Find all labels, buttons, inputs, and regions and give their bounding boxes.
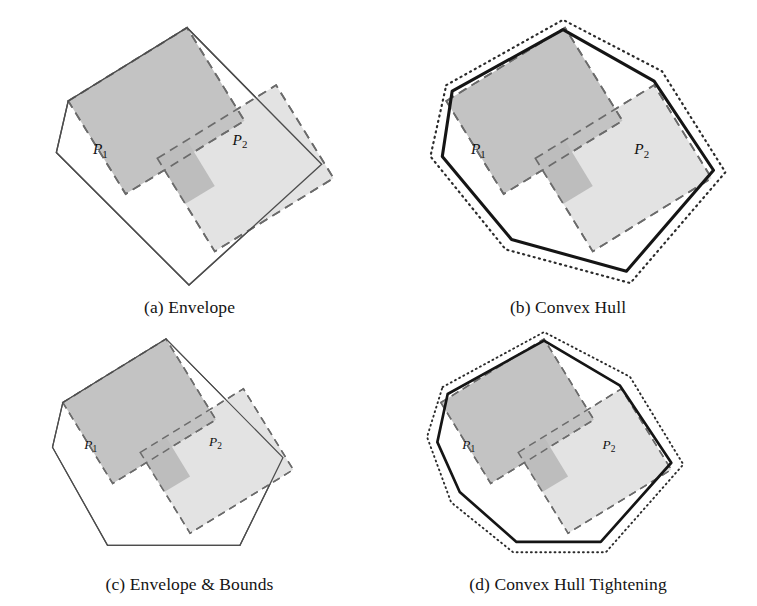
caption-panel-a: (a) Envelope [144,297,235,318]
panel-grid: P1 P2 (a) Envelope [0,0,757,606]
panel-b-convex-hull: P1 P2 (b) Convex Hull [379,0,757,318]
figure-root: P1 P2 (a) Envelope [0,0,757,606]
caption-panel-c: (c) Envelope & Bounds [106,574,274,595]
panel-c-canvas: P1 P2 [25,318,355,568]
caption-panel-d: (d) Convex Hull Tightening [469,574,667,595]
panel-d-canvas: P1 P2 [403,318,733,568]
panel-d-hull-tightening: P1 P2 (d) Convex Hull Tightening [379,318,757,606]
panel-a-canvas: P1 P2 [25,0,355,293]
caption-panel-b: (b) Convex Hull [510,297,626,318]
panel-a-envelope: P1 P2 (a) Envelope [0,0,379,318]
panel-b-canvas: P1 P2 [403,0,733,293]
panel-c-envelope-bounds: P1 P2 (c) Envelope & Bounds [0,318,379,606]
